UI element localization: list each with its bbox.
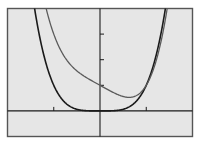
function-graph — [0, 0, 200, 147]
